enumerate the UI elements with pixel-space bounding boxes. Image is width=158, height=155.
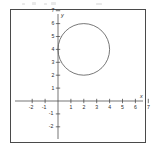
x-tick-label: -2 — [29, 105, 34, 110]
x-tick-label: 5 — [121, 105, 124, 110]
x-tick-label: 1 — [70, 105, 73, 110]
x-tick-label: 2 — [82, 105, 85, 110]
x-tick-label: -1 — [42, 105, 47, 110]
x-tick-label: 7 — [147, 105, 150, 110]
y-tick-label: 2 — [51, 73, 54, 78]
y-tick-label: -1 — [49, 111, 54, 116]
data-circle — [58, 24, 110, 76]
y-tick-label: 6 — [51, 21, 54, 26]
plot-area — [0, 0, 158, 155]
y-tick-label: 1 — [51, 86, 54, 91]
x-tick-label: 6 — [134, 105, 137, 110]
x-axis-label: x — [140, 94, 143, 99]
data-series-group — [58, 24, 110, 76]
y-tick-label: 7 — [51, 8, 54, 13]
y-tick-label: -2 — [49, 124, 54, 129]
x-tick-label: 4 — [108, 105, 111, 110]
y-tick-label: 3 — [51, 60, 54, 65]
figure-canvas: -2-11234567 -2-11234567 x y — [0, 0, 158, 155]
y-tick-label: 4 — [51, 47, 54, 52]
x-tick-label: 3 — [95, 105, 98, 110]
y-axis-label: y — [61, 13, 64, 18]
y-tick-label: 5 — [51, 34, 54, 39]
